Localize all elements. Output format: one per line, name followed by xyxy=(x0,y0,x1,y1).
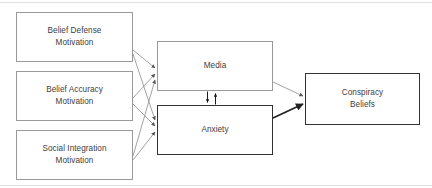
frame-top-rule xyxy=(0,2,432,3)
node-media[interactable]: Media xyxy=(157,41,273,91)
node-belief-accuracy-motivation[interactable]: Belief Accuracy Motivation xyxy=(16,71,133,121)
edge-social-integration-to-media xyxy=(133,80,155,156)
node-conspiracy-beliefs-label: Conspiracy Beliefs xyxy=(340,87,385,111)
node-media-label: Media xyxy=(202,60,229,72)
node-anxiety-label: Anxiety xyxy=(199,124,230,136)
node-social-integration-motivation[interactable]: Social Integration Motivation xyxy=(16,130,133,180)
edge-belief-accuracy-to-anxiety xyxy=(133,104,155,126)
node-belief-accuracy-motivation-label: Belief Accuracy Motivation xyxy=(44,84,105,108)
edge-anxiety-to-conspiracy-beliefs xyxy=(273,104,303,118)
node-social-integration-motivation-label: Social Integration Motivation xyxy=(40,143,108,167)
edge-media-to-conspiracy-beliefs xyxy=(273,82,303,96)
edge-belief-defense-to-anxiety xyxy=(133,54,155,120)
node-conspiracy-beliefs[interactable]: Conspiracy Beliefs xyxy=(305,73,420,125)
node-belief-defense-motivation[interactable]: Belief Defense Motivation xyxy=(16,12,133,62)
node-belief-defense-motivation-label: Belief Defense Motivation xyxy=(46,25,104,49)
diagram-canvas: Belief Defense Motivation Belief Accurac… xyxy=(0,0,432,188)
node-anxiety[interactable]: Anxiety xyxy=(157,105,273,155)
frame-bottom-rule xyxy=(0,185,432,186)
edge-belief-defense-to-media xyxy=(133,50,155,68)
